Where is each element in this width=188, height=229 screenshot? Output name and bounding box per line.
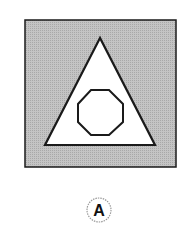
octagon — [78, 90, 123, 135]
figure-option-a: A — [0, 0, 188, 229]
option-label: A — [93, 202, 105, 219]
